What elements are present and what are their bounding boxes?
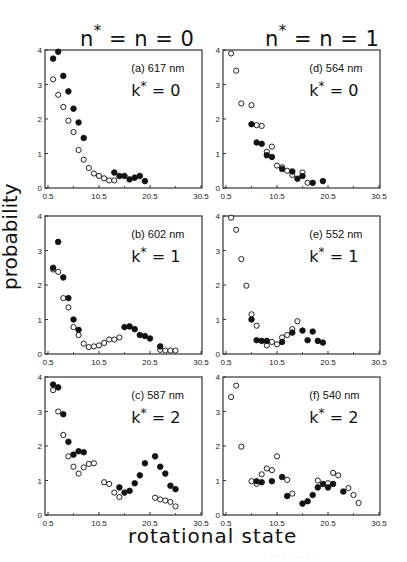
filled-data-point bbox=[300, 328, 306, 334]
open-data-point bbox=[96, 343, 101, 348]
open-data-point bbox=[51, 77, 56, 82]
filled-data-point bbox=[76, 448, 82, 454]
open-data-point bbox=[229, 394, 234, 399]
filled-data-point bbox=[61, 73, 67, 79]
filled-data-point bbox=[55, 239, 61, 245]
open-data-point bbox=[91, 461, 96, 466]
x-tick-label: 0.5 bbox=[42, 519, 54, 528]
panel-label: (e) 552 nm bbox=[309, 228, 362, 240]
open-data-point bbox=[239, 444, 244, 449]
filled-data-point bbox=[279, 474, 285, 480]
open-data-point bbox=[96, 173, 101, 178]
open-data-point bbox=[76, 471, 81, 476]
y-tick-label: 1 bbox=[216, 316, 221, 325]
x-tick-label: 20.5 bbox=[320, 519, 336, 528]
filled-data-point bbox=[254, 337, 260, 343]
open-data-point bbox=[107, 481, 112, 486]
open-data-point bbox=[76, 332, 81, 337]
filled-data-point bbox=[305, 498, 311, 504]
filled-data-point bbox=[122, 173, 128, 179]
open-data-point bbox=[274, 342, 279, 347]
open-data-point bbox=[56, 269, 61, 274]
filled-data-point bbox=[66, 89, 72, 95]
y-tick-label: 1 bbox=[38, 477, 43, 486]
y-tick-label: 3 bbox=[38, 247, 43, 256]
open-data-point bbox=[234, 383, 239, 388]
filled-data-point bbox=[81, 135, 87, 141]
k-star-label: k* = 2 bbox=[131, 406, 180, 427]
y-tick-label: 2 bbox=[216, 442, 221, 451]
filled-data-point bbox=[305, 337, 311, 343]
open-data-point bbox=[269, 339, 274, 344]
y-axis-label: probability bbox=[0, 183, 22, 290]
filled-data-point bbox=[310, 329, 316, 335]
open-data-point bbox=[61, 296, 66, 301]
filled-data-point bbox=[315, 485, 321, 491]
open-data-point bbox=[173, 348, 178, 353]
panel-label: (f) 540 nm bbox=[309, 389, 359, 401]
open-data-point bbox=[274, 454, 279, 459]
open-data-point bbox=[331, 470, 336, 475]
y-tick-label: 1 bbox=[38, 150, 43, 159]
filled-data-point bbox=[269, 154, 275, 160]
open-data-point bbox=[102, 340, 107, 345]
x-tick-label: 20.5 bbox=[320, 192, 336, 201]
y-tick-label: 4 bbox=[216, 212, 221, 221]
filled-data-point bbox=[279, 339, 285, 345]
open-data-point bbox=[285, 168, 290, 173]
k-star-label: k* = 0 bbox=[131, 79, 180, 100]
open-data-point bbox=[56, 409, 61, 414]
open-data-point bbox=[285, 332, 290, 337]
filled-data-point bbox=[127, 488, 133, 494]
filled-data-point bbox=[295, 176, 301, 182]
y-tick-label: 1 bbox=[38, 316, 43, 325]
open-data-point bbox=[71, 130, 76, 135]
filled-data-point bbox=[66, 439, 72, 445]
y-tick-label: 2 bbox=[38, 115, 43, 124]
filled-data-point bbox=[127, 324, 133, 330]
open-data-point bbox=[336, 473, 341, 478]
filled-data-point bbox=[71, 452, 77, 458]
open-data-point bbox=[163, 498, 168, 503]
filled-data-point bbox=[290, 169, 296, 175]
open-data-point bbox=[229, 51, 234, 56]
filled-data-point bbox=[137, 473, 143, 479]
open-data-point bbox=[61, 432, 66, 437]
y-tick-label: 3 bbox=[216, 408, 221, 417]
open-data-point bbox=[81, 157, 86, 162]
filled-data-point bbox=[330, 481, 336, 487]
open-data-point bbox=[112, 337, 117, 342]
open-data-point bbox=[81, 465, 86, 470]
open-data-point bbox=[351, 492, 356, 497]
x-tick-label: 10.5 bbox=[269, 358, 285, 367]
x-tick-label: 20.5 bbox=[320, 358, 336, 367]
y-tick-label: 4 bbox=[216, 46, 221, 55]
y-tick-label: 2 bbox=[216, 115, 221, 124]
open-data-point bbox=[259, 472, 264, 477]
panel-label: (c) 587 nm bbox=[131, 389, 184, 401]
open-data-point bbox=[168, 499, 173, 504]
y-tick-label: 4 bbox=[216, 373, 221, 382]
open-data-point bbox=[102, 480, 107, 485]
filled-data-point bbox=[157, 344, 163, 350]
filled-data-point bbox=[50, 56, 56, 62]
open-data-point bbox=[264, 466, 269, 471]
open-data-point bbox=[153, 495, 158, 500]
y-tick-label: 1 bbox=[216, 477, 221, 486]
open-data-point bbox=[66, 454, 71, 459]
open-data-point bbox=[107, 337, 112, 342]
filled-data-point bbox=[71, 106, 77, 112]
open-data-point bbox=[117, 335, 122, 340]
filled-data-point bbox=[76, 327, 82, 333]
x-tick-label: 0.5 bbox=[220, 358, 232, 367]
y-tick-label: 3 bbox=[216, 81, 221, 90]
open-data-point bbox=[86, 461, 91, 466]
filled-data-point bbox=[264, 338, 270, 344]
open-data-point bbox=[315, 478, 320, 483]
scatter-plot-b: 012340.510.520.530.5(b) 602 nmk* = 1 bbox=[25, 211, 222, 374]
x-tick-label: 0.5 bbox=[42, 192, 54, 201]
filled-data-point bbox=[168, 483, 174, 489]
filled-data-point bbox=[66, 295, 72, 301]
scatter-plot-d: 012340.510.520.530.5(d) 564 nmk* = 0 bbox=[203, 45, 400, 208]
filled-data-point bbox=[259, 479, 265, 485]
